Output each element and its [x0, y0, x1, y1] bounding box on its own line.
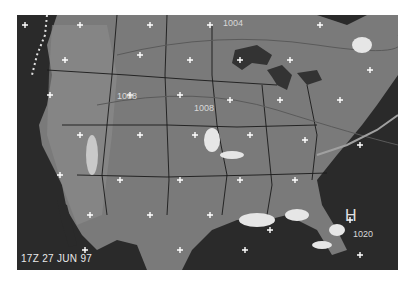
weather-map: 1004 1008 1008 H 1020 17Z 27 JUN 97 — [17, 15, 398, 270]
timestamp-label: 17Z 27 JUN 97 — [21, 253, 92, 264]
map-graphic — [17, 15, 398, 270]
high-pressure-marker: H — [345, 207, 357, 225]
isobar-label-1004: 1004 — [223, 18, 243, 28]
front-line — [32, 15, 47, 75]
high-pressure-value: 1020 — [353, 229, 373, 239]
isobar-label-1008-central: 1008 — [194, 103, 214, 113]
isobar-label-1008-west: 1008 — [117, 91, 137, 101]
